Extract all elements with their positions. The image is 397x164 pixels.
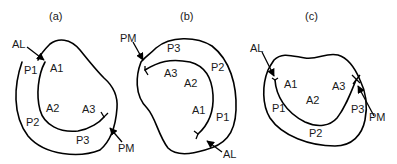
panel-b-pm-arrow bbox=[133, 42, 143, 60]
panel-c: (c) AL A1 A3 A2 P1 P3 PM P2 bbox=[250, 10, 386, 146]
panel-b: (b) PM P3 A3 P2 A2 A1 P1 AL bbox=[120, 10, 236, 160]
panel-b-outer-curve bbox=[137, 39, 236, 154]
panel-b-label-p3: P3 bbox=[167, 42, 180, 54]
panel-a-label-a3: A3 bbox=[82, 103, 95, 115]
panel-c-title: (c) bbox=[305, 10, 318, 22]
panel-a-inner-curve bbox=[38, 62, 104, 131]
panel-b-label-pm: PM bbox=[120, 32, 137, 44]
panel-c-label-pm: PM bbox=[369, 111, 386, 123]
panel-a-outer-curve bbox=[16, 40, 117, 154]
panel-b-label-al: AL bbox=[223, 148, 236, 160]
panel-a-label-pm: PM bbox=[118, 142, 135, 154]
panel-c-a1-tick bbox=[272, 78, 278, 80]
panel-b-title: (b) bbox=[180, 10, 193, 22]
panel-c-label-p2: P2 bbox=[309, 127, 322, 139]
panel-a-label-p3: P3 bbox=[76, 134, 89, 146]
panel-c-label-a3: A3 bbox=[332, 80, 345, 92]
panel-b-label-p1: P1 bbox=[216, 111, 229, 123]
panel-b-label-a2: A2 bbox=[184, 77, 197, 89]
panel-b-a1-tick bbox=[194, 131, 198, 139]
panel-a-label-al: AL bbox=[12, 38, 25, 50]
panel-c-label-a2: A2 bbox=[306, 94, 319, 106]
panel-a-a3-tick bbox=[101, 112, 108, 117]
panel-a-title: (a) bbox=[49, 10, 62, 22]
panel-b-label-a1: A1 bbox=[192, 104, 205, 116]
panel-b-a3-tick bbox=[145, 66, 148, 75]
panel-a-label-a2: A2 bbox=[46, 102, 59, 114]
panel-a-label-p2: P2 bbox=[26, 116, 39, 128]
diagram-canvas: (a) AL P1 A1 A2 A3 P2 P3 PM (b) PM bbox=[0, 0, 397, 164]
panel-c-label-p3: P3 bbox=[351, 103, 364, 115]
panel-c-a3-tick bbox=[352, 75, 360, 84]
panel-b-al-arrow bbox=[207, 141, 222, 152]
panel-a-label-a1: A1 bbox=[50, 62, 63, 74]
panel-b-label-a3: A3 bbox=[164, 67, 177, 79]
panel-a: (a) AL P1 A1 A2 A3 P2 P3 PM bbox=[12, 10, 135, 154]
panel-c-label-p1: P1 bbox=[272, 102, 285, 114]
panel-c-label-al: AL bbox=[250, 42, 263, 54]
panel-c-label-a1: A1 bbox=[284, 78, 297, 90]
panel-b-label-p2: P2 bbox=[211, 61, 224, 73]
panel-a-label-p1: P1 bbox=[24, 64, 37, 76]
